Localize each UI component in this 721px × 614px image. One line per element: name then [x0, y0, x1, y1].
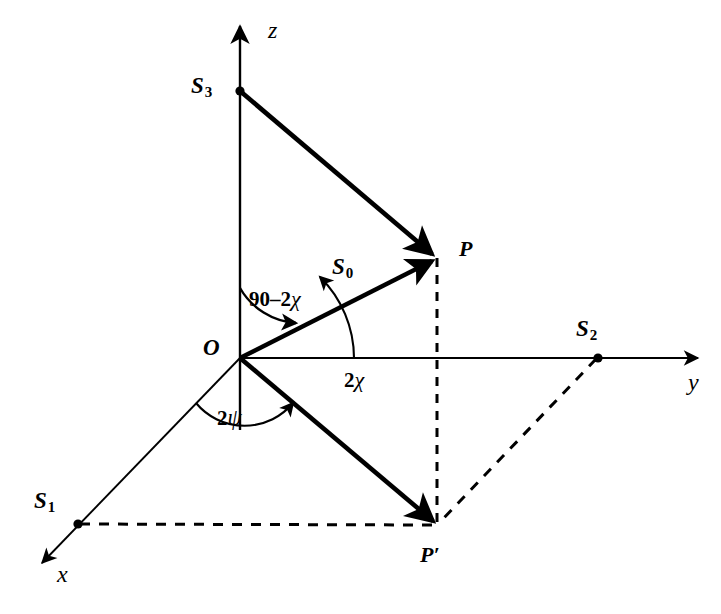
point-dot-S2 [593, 353, 602, 362]
point-label-S2-sub: 2 [589, 327, 598, 343]
dashed-S1-to-Pprime [80, 524, 434, 525]
point-label-S1: S1 [34, 489, 55, 515]
angle-label-90-minus-2chi-greek: χ [291, 286, 301, 311]
point-label-S3-sub: 3 [204, 84, 213, 100]
angle-label-2psi: 2ψ [217, 406, 242, 429]
vector-O-to-Pprime [240, 358, 433, 521]
dashed-S2-to-Pprime [440, 359, 596, 522]
y-axis-label: y [688, 370, 699, 394]
x-axis [42, 358, 240, 563]
angle-label-90-minus-2chi: 90–2χ [249, 288, 301, 310]
angle-label-2chi-bold: 2 [344, 368, 355, 392]
vector-label-S0-base: S [332, 254, 345, 279]
arc-2psi [196, 403, 293, 426]
angle-label-2chi: 2χ [344, 369, 364, 391]
point-label-S1-base: S [34, 488, 47, 513]
x-axis-label: x [57, 562, 68, 586]
point-dot-S3 [235, 86, 244, 95]
z-axis-label: z [268, 18, 277, 42]
poincare-sphere-diagram: z y x S3 S2 S1 P P′ O S0 90–2χ 2χ 2ψ [0, 0, 721, 614]
vector-label-S0: S0 [332, 255, 353, 281]
angle-label-2psi-bold: 2 [217, 406, 228, 430]
vector-S3-to-P [240, 91, 432, 254]
point-label-S2-base: S [576, 316, 589, 341]
origin-label-O: O [203, 336, 220, 359]
point-label-S1-sub: 1 [47, 499, 56, 515]
point-dot-S1 [73, 519, 82, 528]
angle-label-2psi-greek: ψ [228, 405, 242, 430]
point-label-S2: S2 [576, 317, 597, 343]
point-label-P: P [459, 238, 472, 260]
point-label-S3-base: S [191, 73, 204, 98]
vector-label-S0-sub: 0 [345, 265, 354, 281]
angle-label-2chi-greek: χ [355, 367, 365, 392]
diagram-canvas [0, 0, 721, 614]
arc-2chi [320, 277, 354, 358]
point-label-S3: S3 [191, 74, 212, 100]
angle-label-90-minus-2chi-bold: 90–2 [249, 287, 291, 311]
point-label-P-prime: P′ [420, 544, 440, 566]
